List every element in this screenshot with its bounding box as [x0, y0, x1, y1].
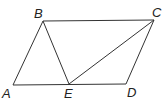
- label-a: A: [1, 86, 11, 101]
- segment-be: [43, 21, 69, 84]
- label-b: B: [34, 6, 43, 21]
- segment-cd: [126, 20, 154, 84]
- segment-ab: [13, 21, 43, 85]
- parallelogram-diagram: B C A E D: [0, 0, 166, 103]
- label-e: E: [64, 86, 73, 101]
- segment-bc: [43, 20, 154, 21]
- segment-ec: [69, 20, 154, 84]
- label-d: D: [127, 85, 136, 100]
- label-c: C: [152, 5, 162, 20]
